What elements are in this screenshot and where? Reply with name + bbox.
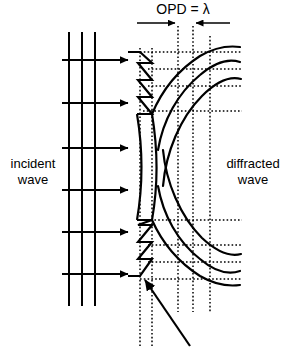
incident-wavefront-lines bbox=[69, 32, 95, 306]
diffraction-grating-figure: OPD = λ incident wave diffracted wave bbox=[0, 0, 289, 352]
grating-pointer-arrow bbox=[145, 280, 190, 346]
sawtooth-lower bbox=[128, 220, 152, 276]
diffracted-wave-label-line2: wave bbox=[218, 172, 288, 188]
pointer-arrow-line bbox=[145, 280, 190, 346]
diffracted-arc-upper-2 bbox=[158, 61, 240, 150]
opd-title-label: OPD = λ bbox=[128, 1, 238, 19]
diffracted-wave-label: diffracted wave bbox=[218, 156, 288, 189]
incident-wave-label-line2: wave bbox=[2, 172, 64, 188]
diffracted-wave-label-line1: diffracted bbox=[218, 156, 288, 172]
incident-wave-label-line1: incident bbox=[2, 156, 64, 172]
sawtooth-upper bbox=[128, 52, 152, 114]
diffracted-arc-lower-2 bbox=[158, 186, 240, 273]
incident-wave-label: incident wave bbox=[2, 156, 64, 189]
